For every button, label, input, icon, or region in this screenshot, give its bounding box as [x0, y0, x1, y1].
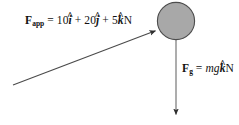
applied-force-label: Fapp = 10^i + 20^j + 5^kN	[25, 15, 132, 28]
applied-plus-one: +	[75, 14, 82, 26]
applied-plus-two: +	[102, 14, 109, 26]
j-hat-accent-icon: ^	[95, 11, 101, 22]
k-hat-accent-icon-gravity: ^	[220, 59, 226, 70]
j-hat-unit-vector: ^j	[96, 15, 99, 27]
gravity-force-label: Fg = mg^kN	[182, 63, 234, 76]
applied-force-equals: =	[47, 14, 54, 26]
applied-force-arrow	[13, 31, 156, 85]
applied-force-units: N	[124, 14, 132, 26]
gravity-force-subscript: g	[189, 67, 193, 76]
mass-ball	[157, 2, 194, 39]
gravity-force-units: N	[226, 62, 234, 74]
gravity-force-equals: =	[196, 62, 203, 74]
i-hat-accent-icon: ^	[67, 11, 73, 22]
gravity-magnitude: mg	[205, 62, 219, 74]
k-hat-accent-icon-applied: ^	[118, 11, 124, 22]
k-hat-unit-vector-applied: ^k	[118, 15, 124, 27]
i-hat-unit-vector: ^i	[68, 15, 71, 27]
applied-force-subscript: app	[32, 19, 44, 28]
k-hat-unit-vector-gravity: ^k	[220, 63, 226, 75]
free-body-diagram: Fapp = 10^i + 20^j + 5^kN Fg = mg^kN	[0, 0, 239, 125]
